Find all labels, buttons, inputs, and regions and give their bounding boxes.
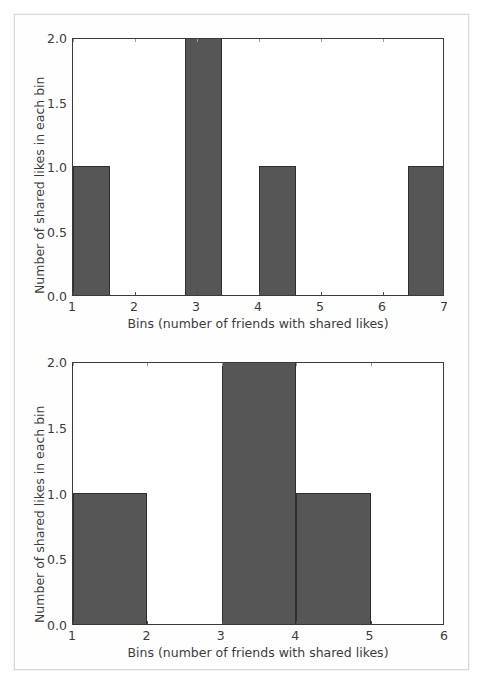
x-tick-label: 3 <box>217 628 225 643</box>
histogram-bar <box>73 166 110 295</box>
x-tick-label: 5 <box>316 299 324 314</box>
y-tick-bottom <box>72 492 73 493</box>
x-tick-label: 2 <box>130 299 138 314</box>
x-tick-top-top <box>135 38 136 42</box>
y-tick-label: 2.0 <box>37 355 67 370</box>
x-tick-bottom <box>296 621 297 625</box>
x-axis-label-top: Bins (number of friends with shared like… <box>72 316 444 331</box>
x-tick-top <box>73 292 74 296</box>
y-tick-right-bottom <box>443 426 444 427</box>
y-tick-label: 1.5 <box>37 420 67 435</box>
x-tick-bottom <box>371 621 372 625</box>
y-tick-label: 1.0 <box>37 486 67 501</box>
histogram-bar <box>408 166 444 295</box>
y-tick-bottom <box>72 623 73 624</box>
x-tick-label: 3 <box>192 299 200 314</box>
x-tick-top-bottom <box>296 362 297 366</box>
y-axis-label-bottom: Number of shared likes in each bin <box>32 406 47 624</box>
x-tick-label: 6 <box>440 628 448 643</box>
y-tick-top <box>72 101 73 102</box>
y-tick-right-top <box>443 165 444 166</box>
y-tick-label: 0.5 <box>37 552 67 567</box>
x-tick-top-bottom <box>73 362 74 366</box>
y-tick-right-top <box>443 294 444 295</box>
x-tick-top-bottom <box>222 362 223 366</box>
x-tick-top-bottom <box>147 362 148 366</box>
y-tick-right-bottom <box>443 492 444 493</box>
document-page: Number of shared likes in each bin Bins … <box>0 0 485 684</box>
x-tick-top-top <box>259 38 260 42</box>
x-tick-label: 4 <box>254 299 262 314</box>
y-tick-top <box>72 230 73 231</box>
histogram-bar <box>73 493 147 625</box>
histogram-bar <box>259 166 296 295</box>
plot-area-top <box>72 38 444 296</box>
y-tick-right-bottom <box>443 623 444 624</box>
x-tick-label: 1 <box>68 628 76 643</box>
x-tick-top-top <box>197 38 198 42</box>
histogram-bar <box>222 362 296 624</box>
y-tick-label: 2.0 <box>37 31 67 46</box>
x-tick-bottom <box>222 621 223 625</box>
plot-area-bottom <box>72 362 444 625</box>
y-tick-right-bottom <box>443 557 444 558</box>
histogram-bar <box>296 493 370 625</box>
x-tick-top-top <box>383 38 384 42</box>
x-tick-top <box>383 292 384 296</box>
x-tick-label: 4 <box>291 628 299 643</box>
figure-histogram-top: Number of shared likes in each bin Bins … <box>18 20 468 338</box>
x-axis-label-bottom: Bins (number of friends with shared like… <box>72 645 444 660</box>
x-tick-label: 5 <box>366 628 374 643</box>
x-tick-label: 1 <box>68 299 76 314</box>
bar-series-bottom <box>73 363 443 624</box>
histogram-bar <box>185 38 222 295</box>
y-tick-label: 1.5 <box>37 95 67 110</box>
y-tick-bottom <box>72 426 73 427</box>
y-tick-top <box>72 294 73 295</box>
x-tick-label: 7 <box>440 299 448 314</box>
x-tick-bottom <box>73 621 74 625</box>
x-tick-top <box>321 292 322 296</box>
x-tick-top-bottom <box>371 362 372 366</box>
y-tick-top <box>72 165 73 166</box>
y-tick-label: 1.0 <box>37 160 67 175</box>
x-tick-top <box>197 292 198 296</box>
x-tick-top <box>259 292 260 296</box>
x-tick-bottom <box>147 621 148 625</box>
bar-series-top <box>73 39 443 295</box>
y-tick-label: 0.5 <box>37 224 67 239</box>
y-tick-label: 0.0 <box>37 618 67 633</box>
y-tick-bottom <box>72 557 73 558</box>
x-tick-label: 2 <box>142 628 150 643</box>
x-tick-top-top <box>73 38 74 42</box>
y-tick-right-top <box>443 101 444 102</box>
x-tick-label: 6 <box>378 299 386 314</box>
x-tick-top <box>135 292 136 296</box>
x-tick-top-top <box>321 38 322 42</box>
y-tick-right-top <box>443 230 444 231</box>
y-tick-label: 0.0 <box>37 289 67 304</box>
figure-histogram-bottom: Number of shared likes in each bin Bins … <box>18 345 468 665</box>
